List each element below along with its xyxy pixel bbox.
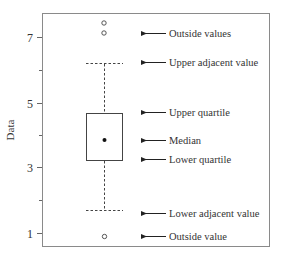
tick-label-7: 7	[27, 31, 33, 45]
median-point	[103, 138, 107, 142]
label-median: Median	[169, 135, 202, 146]
label-outside-values: Outside values	[169, 28, 231, 39]
upper-outlier-point	[102, 31, 106, 35]
box-plot	[86, 21, 123, 239]
upper-outlier-point	[102, 21, 106, 25]
box-plot-diagram: 7 5 3 1 Data	[0, 0, 281, 260]
tick-label-3: 3	[27, 161, 33, 175]
annotation-arrows	[146, 34, 166, 237]
lower-outlier-point	[102, 234, 106, 238]
y-axis-title: Data	[4, 120, 16, 141]
tick-label-1: 1	[27, 227, 33, 241]
interquartile-box	[87, 114, 123, 161]
label-upper-quartile: Upper quartile	[169, 107, 230, 118]
label-lower-quartile: Lower quartile	[169, 154, 231, 165]
label-upper-adjacent-value: Upper adjacent value	[169, 57, 259, 68]
label-outside-value: Outside value	[169, 231, 227, 242]
label-lower-adjacent-value: Lower adjacent value	[169, 208, 260, 219]
tick-label-5: 5	[27, 97, 33, 111]
y-axis	[37, 38, 42, 234]
